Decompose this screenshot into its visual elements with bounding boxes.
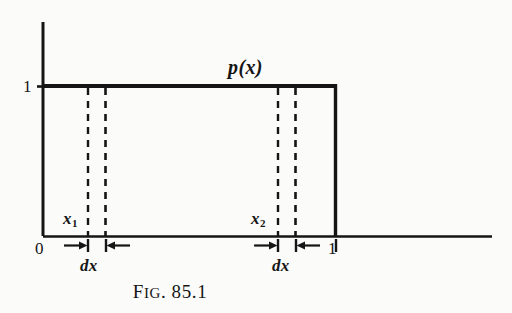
x1-left-arrow-head: [79, 242, 88, 250]
dx-left-label: dx: [80, 257, 98, 274]
density-function-label: p(x): [228, 57, 263, 77]
figure-page: 1 0 1 p(x) x1 x2 dx dx FIG. 85.1: [0, 0, 512, 313]
x2-label-subscript: 2: [260, 217, 266, 229]
x1-label-subscript: 1: [72, 217, 78, 229]
x1-label-base: x: [63, 209, 72, 228]
x2-left-arrow-head: [269, 242, 278, 250]
x1-label: x1: [63, 210, 78, 229]
x-axis-tick-label-one: 1: [328, 240, 337, 257]
figure-caption-number: . 85.1: [161, 281, 207, 302]
figure-caption-prefix: F: [133, 281, 144, 302]
x-axis-tick-label-zero: 0: [35, 240, 44, 257]
figure-caption: FIG. 85.1: [0, 281, 340, 303]
x2-right-arrow-head: [297, 242, 306, 250]
figure-caption-prefix-rest: IG: [144, 285, 161, 301]
x1-right-arrow-head: [107, 242, 116, 250]
y-axis-tick-label-one: 1: [23, 78, 32, 95]
x2-label-base: x: [251, 209, 260, 228]
x2-label: x2: [251, 210, 266, 229]
probability-density-plot: [0, 0, 512, 313]
dx-right-label: dx: [272, 257, 290, 274]
